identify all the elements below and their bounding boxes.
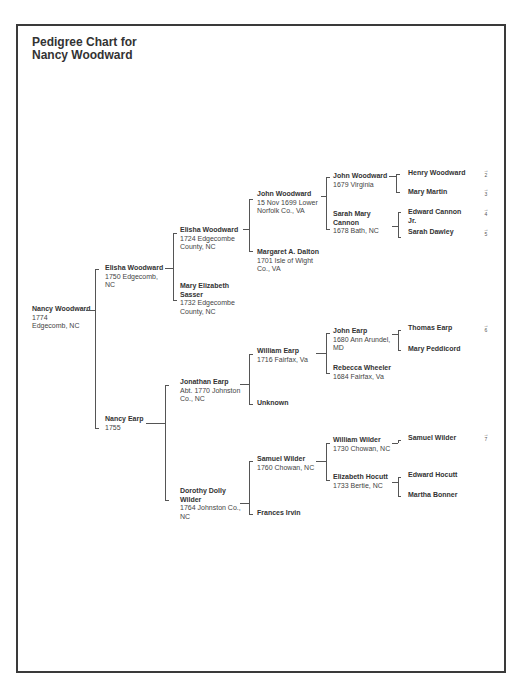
connector	[398, 496, 401, 497]
bracket	[326, 443, 327, 480]
person-sarah-mary-cannon[interactable]: Sarah Mary Cannon 1678 Bath, NC	[333, 210, 383, 236]
person-elisha-woodward-1750[interactable]: Elisha Woodward 1750 Edgecomb, NC	[105, 264, 165, 290]
chart-title: Pedigree Chart for Nancy Woodward	[32, 36, 137, 62]
bracket	[398, 440, 399, 443]
person-jonathan-earp[interactable]: Jonathan Earp Abt. 1770 Johnston Co., NC	[180, 378, 246, 404]
connector	[316, 353, 326, 354]
connector	[95, 269, 99, 270]
person-thomas-earp[interactable]: Thomas Earp	[408, 324, 480, 333]
person-mary-peddicord[interactable]: Mary Peddicord	[408, 345, 480, 354]
connector	[398, 212, 401, 213]
connector	[398, 237, 401, 238]
connector	[396, 192, 400, 193]
title-line-2: Nancy Woodward	[32, 49, 137, 62]
person-rebecca-wheeler[interactable]: Rebecca Wheeler 1684 Fairfax, Va	[333, 364, 399, 381]
person-sarah-dawley[interactable]: Sarah Dawley	[408, 228, 480, 237]
connector	[396, 174, 400, 175]
person-frances-irvin[interactable]: Frances Irvin	[257, 509, 319, 518]
connector	[240, 384, 249, 385]
connector	[326, 177, 330, 178]
bracket	[249, 354, 250, 404]
bracket	[173, 233, 174, 300]
continuation-ref-5[interactable]: → 5	[482, 227, 490, 237]
person-john-earp[interactable]: John Earp 1680 Ann Arundel, MD	[333, 327, 395, 353]
person-mary-elizabeth-sasser[interactable]: Mary Elizabeth Sasser 1732 Edgecombe Cou…	[180, 282, 250, 316]
person-edward-cannon-jr[interactable]: Edward Cannon Jr.	[408, 208, 464, 225]
connector	[249, 251, 253, 252]
connector	[249, 199, 253, 200]
connector	[165, 385, 169, 386]
bracket	[249, 199, 250, 251]
bracket	[249, 461, 250, 514]
connector	[165, 268, 173, 269]
connector	[392, 443, 398, 444]
connector	[326, 373, 330, 374]
connector	[240, 503, 249, 504]
person-john-woodward-1699[interactable]: John Woodward 15 Nov 1699 Lower Norfolk …	[257, 190, 329, 216]
continuation-ref-4[interactable]: → 4	[482, 207, 490, 217]
bracket	[398, 212, 399, 237]
connector	[95, 428, 99, 429]
connector	[389, 176, 396, 177]
person-unknown[interactable]: Unknown	[257, 399, 319, 408]
person-samuel-wilder-1760[interactable]: Samuel Wilder 1760 Chowan, NC	[257, 455, 319, 472]
connector	[398, 350, 401, 351]
person-martha-bonner[interactable]: Martha Bonner	[408, 491, 480, 500]
connector	[326, 443, 330, 444]
person-edward-hocutt[interactable]: Edward Hocutt	[408, 471, 480, 480]
connector	[173, 233, 177, 234]
person-william-earp[interactable]: William Earp 1716 Fairfax, Va	[257, 347, 319, 364]
bracket	[396, 174, 397, 192]
person-dorothy-dolly-wilder[interactable]: Dorothy Dolly Wilder 1764 Johnston Co., …	[180, 487, 246, 521]
connector	[398, 330, 401, 331]
connector	[146, 423, 165, 424]
person-samuel-wilder[interactable]: Samuel Wilder	[408, 434, 480, 443]
connector	[316, 461, 326, 462]
person-margaret-a-dalton[interactable]: Margaret A. Dalton 1701 Isle of Wight Co…	[257, 248, 323, 274]
connector	[326, 229, 330, 230]
bracket	[326, 177, 327, 229]
person-elisha-woodward-1724[interactable]: Elisha Woodward 1724 Edgecombe County, N…	[180, 226, 250, 252]
bracket	[326, 333, 327, 373]
connector	[249, 461, 253, 462]
bracket	[95, 269, 96, 428]
connector	[326, 480, 330, 481]
bracket	[398, 477, 399, 496]
continuation-ref-2[interactable]: → 2	[482, 168, 490, 178]
connector	[326, 333, 330, 334]
connector	[249, 514, 253, 515]
connector	[173, 300, 177, 301]
person-john-woodward-1679[interactable]: John Woodward 1679 Virginia	[333, 172, 399, 189]
continuation-ref-7[interactable]: → 7	[482, 432, 490, 442]
person-henry-woodward[interactable]: Henry Woodward	[408, 169, 480, 178]
person-nancy-woodward[interactable]: Nancy Woodward 1774 Edgecomb, NC	[32, 305, 112, 331]
connector	[249, 404, 253, 405]
person-william-wilder[interactable]: William Wilder 1730 Chowan, NC	[333, 436, 399, 453]
bracket	[165, 385, 166, 500]
connector	[86, 310, 95, 311]
connector	[249, 354, 253, 355]
connector	[165, 500, 169, 501]
continuation-ref-6[interactable]: → 6	[482, 323, 490, 333]
connector	[398, 477, 401, 478]
person-mary-martin[interactable]: Mary Martin	[408, 188, 480, 197]
continuation-ref-3[interactable]: → 3	[482, 187, 490, 197]
bracket	[398, 330, 399, 350]
person-elizabeth-hocutt[interactable]: Elizabeth Hocutt 1733 Bertie, NC	[333, 473, 399, 490]
